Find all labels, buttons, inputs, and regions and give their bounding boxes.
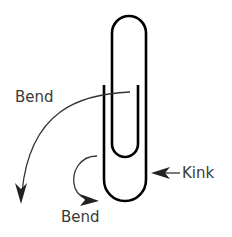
bend-label-top: Bend [15, 90, 54, 105]
kink-arrow [151, 167, 180, 179]
diagram-svg [0, 0, 232, 237]
paperclip-icon [104, 16, 146, 201]
arrowhead-down-icon [15, 183, 27, 204]
kink-label: Kink [182, 166, 214, 181]
bend-label-bottom: Bend [61, 210, 100, 225]
paperclip-diagram: Bend Bend Kink [0, 0, 232, 237]
bend-arrow-small [74, 156, 99, 206]
arrowhead-right-icon [80, 194, 99, 206]
paperclip-wire [104, 16, 146, 201]
